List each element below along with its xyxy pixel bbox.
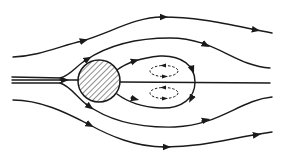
vortex-arrow-icon: [160, 64, 166, 68]
vortex-arrow-icon: [162, 75, 168, 79]
arrow-icon: [252, 29, 256, 30]
streamline-outer-top: [13, 17, 272, 57]
vortex-arrow-icon: [162, 97, 168, 101]
flow-diagram: [0, 0, 284, 157]
cylinder: [78, 60, 120, 102]
incoming-line-1: [12, 77, 62, 78]
upper-vortex: [150, 66, 178, 77]
arrow-icon: [202, 120, 206, 121]
streamline-outer-bottom: [13, 100, 272, 147]
vortex-arrow-icon: [160, 86, 166, 90]
arrow-icon: [86, 123, 90, 125]
arrow-icon: [80, 41, 84, 42]
arrow-icon: [86, 104, 90, 107]
arrow-icon: [131, 98, 135, 99]
lower-vortex: [150, 88, 178, 99]
arrow-icon: [253, 135, 257, 136]
arrow-icon: [202, 43, 206, 45]
